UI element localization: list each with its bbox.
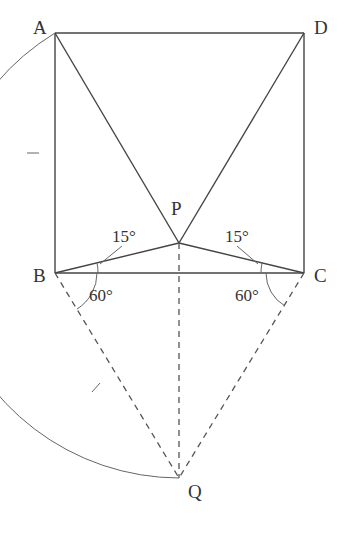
label-C: C [314,265,327,286]
angle-arc-QCB [266,273,285,306]
label-D: D [314,17,328,38]
segment-AP [55,33,179,243]
angle-arc-PCB [261,263,262,273]
label-P: P [171,198,182,219]
segment-CP [179,243,304,273]
segment-DP [179,33,304,243]
segment-BQ [55,273,179,478]
arc-tick-lower [92,383,100,392]
geometry-figure: A D B C P Q 15° 15° 60° 60° [0,0,350,539]
angle-pointer-PCB [237,246,258,264]
angle-arc-PBC [97,263,98,273]
label-Q: Q [188,481,202,502]
label-A: A [33,17,47,38]
angle-pointer-PBC [100,246,122,264]
angle-label-PCB: 15° [225,227,249,246]
angle-label-QBC: 60° [89,286,113,305]
angle-label-PBC: 15° [112,227,136,246]
arc-AQ [0,33,179,478]
angle-label-QCB: 60° [235,286,259,305]
label-B: B [33,265,46,286]
segment-BP [55,243,179,273]
